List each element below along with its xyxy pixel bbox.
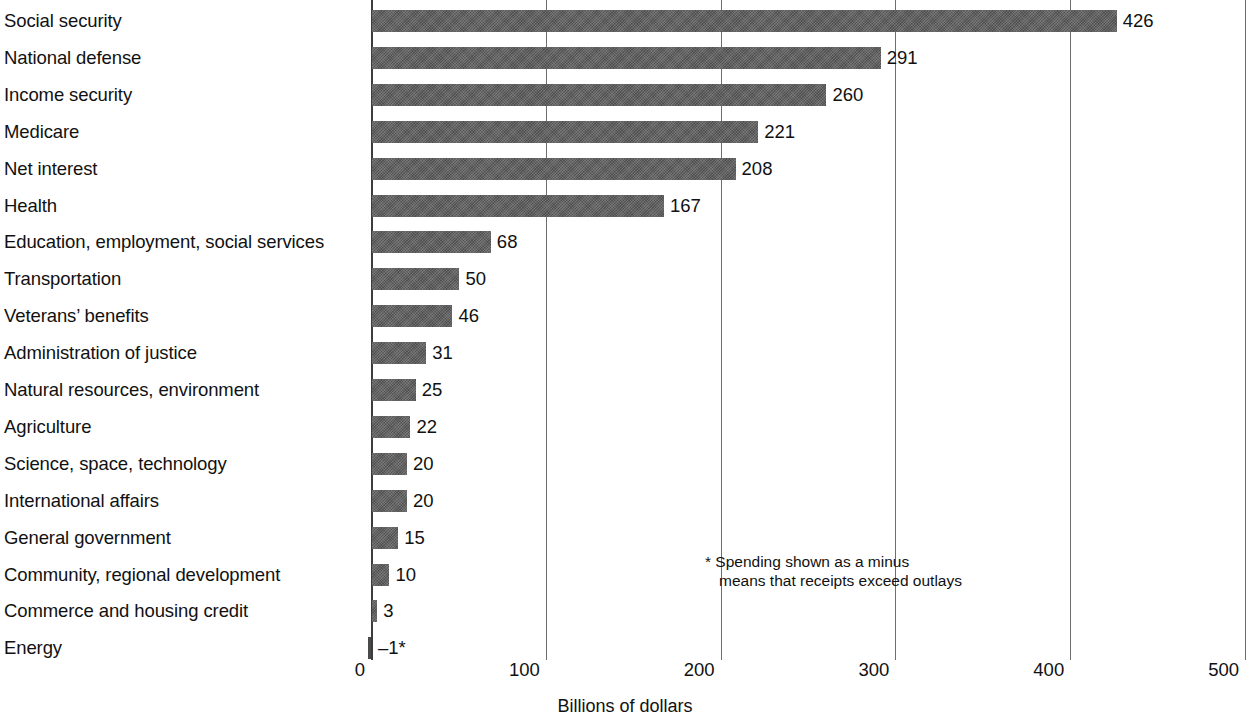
x-tick-label-400: 400 — [950, 661, 1064, 680]
bar — [368, 637, 371, 659]
category-label: Education, employment, social services — [4, 233, 366, 252]
category-label: Medicare — [4, 123, 366, 142]
bar — [372, 84, 826, 106]
x-tick-label-300: 300 — [775, 661, 889, 680]
bar — [372, 416, 410, 438]
category-label: Community, regional development — [4, 566, 366, 585]
bar-value-label: 50 — [465, 270, 486, 289]
bar — [372, 342, 426, 364]
category-label: Transportation — [4, 270, 366, 289]
bar — [372, 527, 398, 549]
bar-value-label: 31 — [432, 344, 453, 363]
bar — [372, 231, 491, 253]
bar-value-label: 68 — [497, 233, 518, 252]
category-label: Science, space, technology — [4, 455, 366, 474]
category-label: Veterans’ benefits — [4, 307, 366, 326]
bar — [372, 158, 736, 180]
bar — [372, 121, 758, 143]
footnote-line-1: * Spending shown as a minus — [705, 552, 1225, 571]
bar — [372, 490, 407, 512]
plot-area: 426291260221208167685046312522202015103–… — [371, 0, 1245, 648]
x-tick-label-100: 100 — [426, 661, 540, 680]
bar-value-label: 22 — [416, 418, 437, 437]
bar — [372, 600, 377, 622]
category-label: General government — [4, 529, 366, 548]
bar — [372, 305, 452, 327]
bar — [372, 564, 389, 586]
footnote-note: * Spending shown as a minus means that r… — [705, 552, 1225, 590]
bar-value-label: 426 — [1123, 12, 1154, 31]
bar-value-label: 25 — [422, 381, 443, 400]
bar — [372, 47, 881, 69]
x-tick-label-0: 0 — [251, 661, 365, 680]
x-tick-label-500: 500 — [1125, 661, 1239, 680]
bar — [372, 379, 416, 401]
category-label: Income security — [4, 86, 366, 105]
bar — [372, 268, 459, 290]
category-label: Health — [4, 197, 366, 216]
footnote-line-2: means that receipts exceed outlays — [705, 571, 1225, 590]
bar-value-label: 260 — [832, 86, 863, 105]
bar-value-label: 20 — [413, 492, 434, 511]
category-label: National defense — [4, 49, 366, 68]
x-axis-title: Billions of dollars — [0, 697, 1250, 715]
bar-value-label: 10 — [395, 566, 416, 585]
bar-value-label: 3 — [383, 602, 393, 621]
x-tick-label-200: 200 — [601, 661, 715, 680]
bar — [372, 453, 407, 475]
bar-value-label: 291 — [887, 49, 918, 68]
bar-value-label: 46 — [458, 307, 479, 326]
bar-value-label: 221 — [764, 123, 795, 142]
category-label: Net interest — [4, 160, 366, 179]
category-label: Energy — [4, 639, 366, 658]
bar-value-label: 20 — [413, 455, 434, 474]
category-label: Agriculture — [4, 418, 366, 437]
category-label: Administration of justice — [4, 344, 366, 363]
bar-chart: Social securityNational defenseIncome se… — [0, 0, 1250, 725]
bar-value-label: –1* — [378, 639, 406, 658]
category-label: Social security — [4, 12, 366, 31]
gridline-500 — [1245, 0, 1246, 660]
bar-value-label: 15 — [404, 529, 425, 548]
bar-value-label: 167 — [670, 197, 701, 216]
bar — [372, 195, 664, 217]
bar-value-label: 208 — [742, 160, 773, 179]
category-label: Natural resources, environment — [4, 381, 366, 400]
category-label: International affairs — [4, 492, 366, 511]
bar — [372, 10, 1117, 32]
category-label: Commerce and housing credit — [4, 602, 366, 621]
